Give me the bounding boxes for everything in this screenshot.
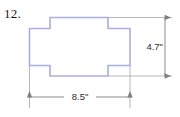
width-dimension-label: 8.5" bbox=[72, 91, 89, 102]
height-dimension-label: 4.7" bbox=[146, 41, 163, 52]
figure-drawing: 4.7" 8.5" bbox=[0, 0, 180, 117]
geometry-figure-panel: 12. 4.7" bbox=[0, 0, 180, 117]
cross-shape-outline bbox=[30, 18, 131, 77]
width-dimension: 8.5" bbox=[30, 90, 131, 103]
height-dimension: 4.7" bbox=[146, 18, 165, 77]
